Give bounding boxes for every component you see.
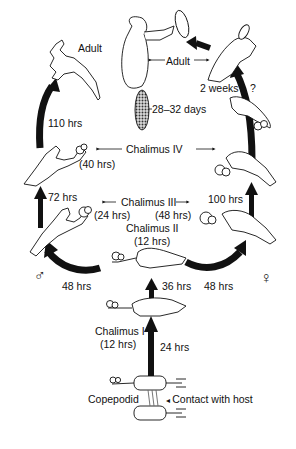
arrow-male-72hrs bbox=[34, 186, 47, 228]
duration-36hrs-label: 36 hrs bbox=[162, 280, 191, 292]
chalimus-2-figure bbox=[112, 248, 186, 268]
duration-100hrs-label: 100 hrs bbox=[208, 193, 243, 205]
chalimus-3-label: Chalimus III bbox=[121, 196, 176, 208]
arrow-male-48hrs bbox=[44, 240, 100, 270]
pointer-lines bbox=[98, 60, 214, 202]
duration-24hrs-label: 24 hrs bbox=[160, 341, 189, 353]
female-symbol: ♀ bbox=[260, 270, 272, 286]
chalimus-3-male-duration: (24 hrs) bbox=[94, 209, 130, 221]
chalimus-1-duration: (12 hrs) bbox=[100, 338, 136, 350]
copepodid-label: Copepodid bbox=[88, 393, 139, 405]
female-chalimus-4-figure bbox=[215, 152, 276, 186]
duration-110hrs-label: 110 hrs bbox=[48, 117, 82, 129]
arrow-female-48hrs bbox=[186, 240, 246, 267]
chalimus-2-duration: (12 hrs) bbox=[134, 235, 170, 247]
life-cycle-diagram: Adult Adult 28–32 days 2 weeks ? 110 hrs… bbox=[0, 0, 296, 449]
duration-male-48hrs-label: 48 hrs bbox=[62, 280, 91, 292]
adult-male-label: Adult bbox=[78, 42, 102, 54]
contact-with-host-label: ◂ Contact with host bbox=[166, 393, 253, 407]
duration-2weeks-label: 2 weeks bbox=[200, 82, 239, 94]
male-chalimus-4-figure bbox=[24, 144, 87, 186]
chalimus-2-label: Chalimus II bbox=[126, 222, 179, 234]
chalimus-3-female-duration: (48 hrs) bbox=[155, 209, 191, 221]
chalimus-1-figure bbox=[107, 298, 187, 316]
chalimus-4-label: Chalimus IV bbox=[126, 143, 183, 155]
adult-female-label: Adult bbox=[166, 55, 190, 67]
arrow-female-to-adult bbox=[186, 36, 210, 50]
contact-with-host-text: Contact with host bbox=[172, 393, 253, 405]
duration-female-48hrs-label: 48 hrs bbox=[204, 280, 233, 292]
arrow-male-110hrs bbox=[40, 78, 61, 148]
egg-duration-label: 28–32 days bbox=[152, 103, 206, 115]
male-symbol: ♂ bbox=[34, 268, 46, 284]
chalimus-1-label: Chalimus I bbox=[95, 325, 145, 337]
duration-72hrs-label: 72 hrs bbox=[48, 191, 77, 203]
uncertain-marker: ? bbox=[250, 82, 256, 94]
arrow-24hrs bbox=[144, 316, 158, 382]
chalimus-4-male-duration: (40 hrs) bbox=[79, 158, 115, 170]
female-chalimus-3-figure bbox=[200, 210, 276, 244]
